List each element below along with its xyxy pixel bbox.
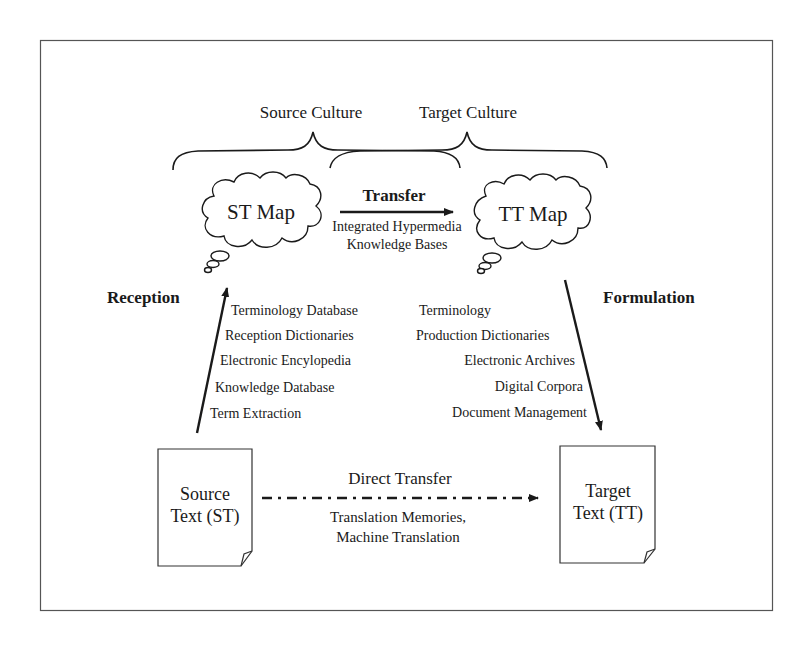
transfer-tool-2: Knowledge Bases [347,238,448,252]
diagram-graphics [0,0,810,647]
target-culture-label: Target Culture [419,104,517,121]
formulation-tool-item: Production Dictionaries [416,328,549,344]
formulation-tool-item: Digital Corpora [495,379,583,395]
source-text-label: Source Text (ST) [170,484,239,527]
st-map-label: ST Map [227,202,295,223]
target-text-line-2: Text (TT) [573,503,643,525]
diagram-frame [41,41,773,611]
formulation-tool-item: Document Management [452,405,587,421]
source-text-line-2: Text (ST) [170,506,239,528]
tt-map-label: TT Map [498,204,567,225]
reception-tool-item: Knowledge Database [215,380,334,396]
reception-tool-item: Electronic Encylopedia [220,353,351,369]
formulation-tool-item: Terminology [419,303,491,319]
reception-tool-item: Terminology Database [231,303,358,319]
formulation-label: Formulation [603,289,695,306]
reception-label: Reception [107,289,180,306]
source-culture-label: Source Culture [260,104,362,121]
translation-process-diagram: Source Culture Target Culture ST Map TT … [0,0,810,647]
transfer-tool-1: Integrated Hypermedia [332,220,461,234]
direct-transfer-tool-1: Translation Memories, [330,510,466,525]
transfer-label: Transfer [363,187,426,204]
reception-tool-item: Term Extraction [210,406,301,422]
direct-transfer-label: Direct Transfer [348,470,451,487]
target-text-label: Target Text (TT) [573,481,643,524]
reception-tool-item: Reception Dictionaries [225,328,354,344]
source-text-line-1: Source [170,484,239,506]
direct-transfer-tool-2: Machine Translation [336,530,460,545]
target-text-line-1: Target [573,481,643,503]
formulation-tool-item: Electronic Archives [464,353,575,369]
